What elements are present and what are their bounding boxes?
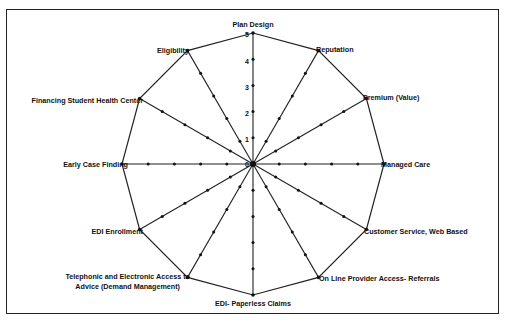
tick-marker xyxy=(251,293,255,297)
radial-tick-5: 5 xyxy=(245,31,249,38)
tick-marker xyxy=(297,189,300,192)
tick-marker xyxy=(297,136,300,139)
radar-spoke xyxy=(188,51,254,164)
axis-label-early-case: Early Case Finding xyxy=(63,160,128,169)
tick-marker xyxy=(304,253,307,256)
tick-marker xyxy=(199,163,202,166)
axis-label-financing: Financing Student Health Center xyxy=(32,96,144,105)
tick-marker xyxy=(274,149,277,152)
tick-marker xyxy=(252,136,255,139)
tick-marker xyxy=(330,163,333,166)
radar-spoke xyxy=(253,164,319,277)
tick-marker xyxy=(161,110,164,113)
axis-label-eligibility: Eligibility xyxy=(157,46,189,55)
tick-marker xyxy=(356,163,359,166)
tick-marker xyxy=(252,58,255,61)
tick-marker xyxy=(238,140,241,143)
tick-marker xyxy=(320,123,323,126)
tick-marker xyxy=(265,140,268,143)
tick-marker xyxy=(229,176,232,179)
tick-marker xyxy=(206,189,209,192)
tick-marker xyxy=(225,208,228,211)
tick-marker xyxy=(206,136,209,139)
tick-marker xyxy=(252,267,255,270)
tick-marker xyxy=(225,163,228,166)
tick-marker xyxy=(183,123,186,126)
radial-tick-3: 3 xyxy=(245,84,249,91)
axis-label-telephonic-line1: Telephonic and Electronic Access to xyxy=(65,272,190,281)
radial-tick-1: 1 xyxy=(245,136,249,143)
axis-label-customer-service: Customer Service, Web Based xyxy=(364,227,468,236)
tick-marker xyxy=(212,231,215,234)
tick-marker xyxy=(199,72,202,75)
tick-marker xyxy=(252,110,255,113)
radar-spoke xyxy=(140,164,253,230)
tick-marker xyxy=(320,202,323,205)
radial-tick-2: 2 xyxy=(245,110,249,117)
center-marker xyxy=(250,161,256,167)
radar-spoke xyxy=(253,164,366,230)
tick-marker xyxy=(199,253,202,256)
tick-marker xyxy=(278,163,281,166)
tick-marker xyxy=(342,215,345,218)
tick-marker xyxy=(265,185,268,188)
tick-marker xyxy=(252,241,255,244)
tick-marker xyxy=(225,117,228,120)
axis-label-online-provider: On Line Provider Access- Referrals xyxy=(319,274,439,283)
radar-spoke xyxy=(188,164,254,277)
tick-marker xyxy=(229,149,232,152)
tick-marker xyxy=(274,176,277,179)
tick-marker xyxy=(252,189,255,192)
tick-marker xyxy=(238,185,241,188)
radial-tick-0: 0 xyxy=(245,161,249,168)
axis-label-edi-enrollment: EDI Enrollment xyxy=(91,227,143,236)
tick-marker xyxy=(161,215,164,218)
axis-label-edi-paperless: EDI- Paperless Claims xyxy=(215,299,291,308)
tick-marker xyxy=(147,163,150,166)
tick-marker xyxy=(291,231,294,234)
axis-label-managed-care: Managed Care xyxy=(381,160,430,169)
tick-marker xyxy=(252,215,255,218)
tick-marker xyxy=(173,163,176,166)
tick-marker xyxy=(304,163,307,166)
tick-marker xyxy=(278,117,281,120)
tick-marker xyxy=(212,94,215,97)
axis-label-premium: Premium (Value) xyxy=(363,93,420,102)
axis-label-reputation: Reputation xyxy=(316,45,354,54)
radar-spoke xyxy=(253,99,366,165)
tick-marker xyxy=(183,202,186,205)
axis-label-telephonic-line2: Advice (Demand Management) xyxy=(75,282,180,291)
tick-marker xyxy=(304,72,307,75)
tick-marker xyxy=(342,110,345,113)
radar-spoke xyxy=(140,99,253,165)
tick-marker xyxy=(251,31,255,35)
tick-marker xyxy=(252,84,255,87)
radial-tick-4: 4 xyxy=(245,58,249,65)
radar-chart: 0 1 2 3 4 5 Plan Design Reputation Premi… xyxy=(0,0,506,327)
tick-marker xyxy=(291,94,294,97)
radar-spoke xyxy=(253,51,319,164)
tick-marker xyxy=(278,208,281,211)
axis-label-plan-design: Plan Design xyxy=(232,20,273,29)
